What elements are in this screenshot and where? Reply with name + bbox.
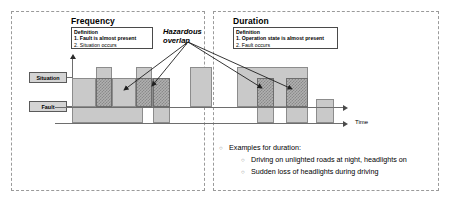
bullet-icon: ○: [241, 166, 251, 178]
examples-heading-row: ○ Examples for duration:: [219, 142, 431, 154]
example-item-1-row: ○ Driving on unlighted roads at night, h…: [241, 154, 431, 166]
examples-heading: Examples for duration:: [229, 142, 301, 154]
hazard-arrow: [152, 42, 188, 86]
example-item-2: Sudden loss of headlights during driving: [251, 166, 378, 178]
diagram-canvas: Frequency Definition 1. Fault is almost …: [0, 0, 453, 202]
bullet-icon: ○: [241, 154, 251, 166]
example-item-2-row: ○ Sudden loss of headlights during drivi…: [241, 166, 431, 178]
example-item-1: Driving on unlighted roads at night, hea…: [251, 154, 407, 166]
bullet-icon: ○: [219, 142, 229, 154]
hazard-arrow: [124, 42, 188, 90]
hazard-arrow: [188, 42, 292, 89]
examples-list: ○ Examples for duration: ○ Driving on un…: [219, 142, 431, 178]
hazard-arrow: [188, 42, 262, 88]
